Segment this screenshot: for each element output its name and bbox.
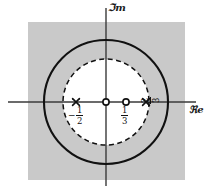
minus-sign: −	[68, 111, 76, 120]
fraction-denominator: 3	[121, 116, 128, 125]
fraction-numerator: 1	[76, 106, 83, 116]
tick-label-neg-one-half: −12	[68, 106, 83, 125]
marker-open-circle-origin	[103, 99, 109, 105]
tick-label-one-third: 13	[121, 106, 128, 125]
fraction-numerator: 1	[121, 106, 128, 116]
real-axis-label: ℜe	[189, 104, 204, 115]
fraction-one-third: 13	[121, 106, 128, 125]
fraction-denominator: 3	[151, 97, 160, 104]
tick-label-two-thirds: 23	[141, 97, 160, 104]
fraction-denominator: 2	[76, 116, 83, 125]
complex-plane-figure: ℑm ℜe −12 13 23	[0, 0, 213, 193]
fraction-two-thirds: 23	[141, 97, 160, 104]
figure-canvas	[0, 0, 213, 193]
fraction-numerator: 2	[141, 97, 151, 104]
fraction-neg-one-half: 12	[76, 106, 83, 125]
imaginary-axis-label: ℑm	[108, 2, 126, 13]
